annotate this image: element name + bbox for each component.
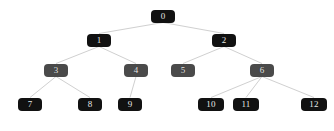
tree-node-label: 7	[28, 100, 33, 109]
tree-node-3[interactable]: 3	[44, 64, 68, 77]
tree-node-label: 10	[206, 100, 215, 109]
tree-node-label: 2	[222, 36, 227, 45]
tree-node-label: 3	[54, 66, 59, 75]
tree-node-8[interactable]: 8	[78, 98, 102, 111]
tree-node-7[interactable]: 7	[18, 98, 42, 111]
tree-node-label: 1	[97, 36, 102, 45]
tree-node-11[interactable]: 11	[233, 98, 259, 111]
tree-node-label: 12	[309, 100, 318, 109]
tree-node-5[interactable]: 5	[171, 64, 195, 77]
tree-node-label: 4	[134, 66, 139, 75]
tree-diagram: 0123456789101112	[0, 0, 334, 131]
tree-node-label: 6	[260, 66, 265, 75]
tree-node-label: 11	[241, 100, 250, 109]
tree-node-0[interactable]: 0	[151, 10, 175, 23]
tree-node-label: 5	[181, 66, 186, 75]
tree-node-9[interactable]: 9	[118, 98, 142, 111]
tree-node-label: 9	[128, 100, 133, 109]
tree-node-4[interactable]: 4	[124, 64, 148, 77]
tree-node-layer: 0123456789101112	[0, 0, 334, 131]
tree-node-6[interactable]: 6	[250, 64, 274, 77]
tree-node-2[interactable]: 2	[212, 34, 236, 47]
tree-node-label: 0	[161, 12, 166, 21]
tree-node-10[interactable]: 10	[198, 98, 224, 111]
tree-node-1[interactable]: 1	[87, 34, 111, 47]
tree-node-label: 8	[88, 100, 93, 109]
tree-node-12[interactable]: 12	[301, 98, 327, 111]
